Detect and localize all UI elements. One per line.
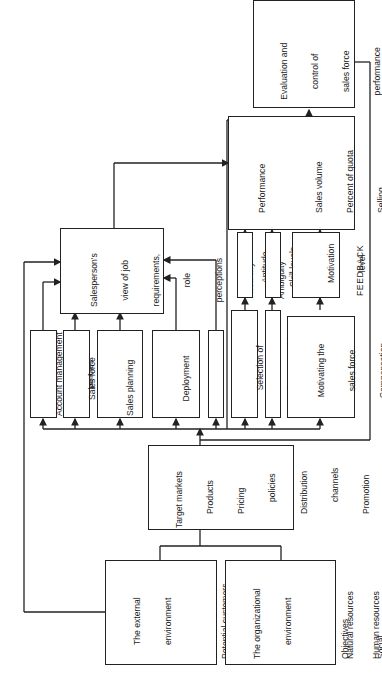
performance-line: Percent of quota: [345, 150, 355, 213]
motivation-level-box: Motivation level: [292, 232, 340, 298]
sales-planning-line: Sales planning: [125, 339, 135, 416]
motivation-level-line: Motivation: [326, 244, 336, 283]
external-env-title-2: environment: [163, 583, 173, 658]
sales-force-org-line: Sales force: [86, 355, 96, 402]
role-perceptions-line: perceptions: [214, 253, 224, 307]
performance-line: Sales volume: [313, 150, 323, 213]
org-env-title-1: The organizational: [251, 584, 261, 659]
evaluation-line: control of: [310, 43, 320, 100]
motivating-box: Motivating the sales force Compensation …: [287, 316, 355, 418]
role-perceptions-line: Salesperson's: [89, 253, 99, 307]
skill-levels-box: Skill levels: [265, 232, 281, 298]
org-env-title-2: environment: [283, 584, 293, 659]
role-perceptions-line: role: [182, 253, 192, 307]
sales-planning-box: Sales planning Demand forecasts Quotas a…: [97, 330, 143, 418]
mix-item: Distribution: [299, 463, 309, 527]
external-env-title-1: The external: [132, 583, 142, 658]
selection-line: Selection of: [254, 338, 264, 398]
org-env-item: Objectives: [340, 584, 350, 659]
sales-force-organization-box: Sales force organization: [63, 330, 90, 418]
motivating-line: Motivating the: [316, 334, 326, 407]
marketing-mix-box: Target markets Products Pricing policies…: [148, 445, 294, 530]
motivating-line: sales force: [347, 334, 357, 407]
evaluation-box: Evaluation and control of sales force pe…: [253, 0, 355, 108]
mix-item: policies: [267, 463, 277, 527]
feedback-label: FEEDBACK: [355, 245, 365, 296]
external-environment-box: The external environment Potential custo…: [105, 560, 217, 665]
mix-item: Pricing: [236, 463, 246, 527]
supervision-box: Supervision: [208, 330, 224, 418]
role-perceptions-line: requirements,: [151, 253, 161, 307]
evaluation-line: Evaluation and: [279, 43, 289, 100]
deployment-box: Deployment Territory design Routing: [152, 330, 200, 418]
organizational-environment-box: The organizational environment Objective…: [225, 560, 336, 665]
mix-item: Promotion: [361, 463, 371, 527]
evaluation-line: sales force: [341, 43, 351, 100]
mix-item: channels: [330, 463, 340, 527]
motivating-line: Compensation: [378, 334, 382, 407]
evaluation-line: performance: [372, 43, 382, 100]
performance-box: Performance Sales volume Percent of quot…: [228, 116, 355, 230]
mix-item: Products: [205, 463, 215, 527]
deployment-line: Deployment: [181, 349, 191, 408]
mix-item: Target markets: [174, 463, 184, 527]
account-management-box: Account management policies: [30, 330, 57, 418]
performance-line: Selling: [376, 150, 382, 213]
aptitude-box: Aptitude: [237, 232, 253, 298]
performance-line: Performance: [256, 150, 266, 213]
selection-box: Selection of sales personnel: [231, 310, 258, 418]
sales-training-box: Sales training: [265, 310, 281, 418]
role-perceptions-box: Salesperson's view of job requirements, …: [60, 228, 164, 314]
org-env-item: Human resources: [371, 584, 381, 659]
role-perceptions-line: view of job: [120, 253, 130, 307]
